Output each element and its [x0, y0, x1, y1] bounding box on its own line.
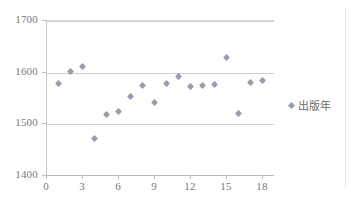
gridline-y: [47, 73, 274, 74]
x-tick-mark: [118, 175, 119, 179]
y-tick-label: 1400: [0, 168, 38, 180]
y-tick-mark: [42, 123, 46, 124]
y-tick-mark: [42, 72, 46, 73]
x-tick-label: 15: [211, 180, 241, 192]
x-tick-label: 18: [247, 180, 277, 192]
x-tick-label: 3: [67, 180, 97, 192]
x-tick-label: 12: [175, 180, 205, 192]
x-tick-mark: [262, 175, 263, 179]
scatter-chart: 1400150016001700 0369121518 出版年: [0, 0, 351, 212]
y-tick-label: 1600: [0, 65, 38, 77]
legend-divider: [345, 8, 346, 188]
y-tick-label: 1500: [0, 116, 38, 128]
x-tick-mark: [82, 175, 83, 179]
x-tick-label: 9: [139, 180, 169, 192]
gridline-y: [47, 21, 274, 22]
legend-item-label: 出版年: [298, 97, 331, 113]
y-tick-label: 1700: [0, 13, 38, 25]
x-tick-mark: [154, 175, 155, 179]
x-tick-mark: [190, 175, 191, 179]
x-tick-label: 0: [31, 180, 61, 192]
x-tick-mark: [46, 175, 47, 179]
plot-area: [46, 20, 274, 175]
x-tick-label: 6: [103, 180, 133, 192]
diamond-marker-icon: [288, 101, 295, 108]
x-axis-line: [46, 175, 274, 176]
x-tick-mark: [226, 175, 227, 179]
gridline-y: [47, 124, 274, 125]
y-tick-mark: [42, 20, 46, 21]
chart-legend: 出版年: [289, 97, 331, 113]
